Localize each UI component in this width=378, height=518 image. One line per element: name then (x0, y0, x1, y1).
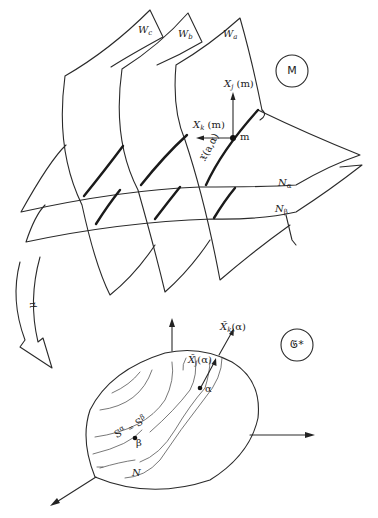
label-point-alpha: α (205, 384, 212, 394)
label-w-a: Wa (223, 29, 237, 41)
sheet-w-c (62, 10, 163, 295)
label-point-m: m (240, 132, 249, 142)
label-w-b: Wb (178, 29, 193, 41)
diagram-drawing (0, 0, 378, 518)
sheet-w-a (175, 18, 290, 280)
label-m-space: M (284, 65, 300, 76)
label-n-alpha: Nα (278, 178, 291, 190)
label-x-tilde-j-alpha: X̃j(α) (188, 355, 212, 367)
label-n-level: N (132, 468, 141, 478)
sheet-w-b (119, 13, 210, 292)
label-n-beta: Nβ (275, 204, 288, 216)
label-x-tilde-k-alpha: X̃k(α) (220, 322, 246, 334)
diagram-canvas: Wc Wb Wa M Xj (m) Xk (m) m 𝔛(a,α) Nα Nβ … (0, 0, 378, 518)
intersection-curves (84, 110, 258, 224)
label-g-star-space: 𝔊* (285, 339, 309, 350)
level-set-n-beta (26, 165, 362, 245)
label-point-beta: β (136, 438, 142, 448)
label-w-c: Wc (138, 25, 152, 37)
label-x-k-m: Xk (m) (193, 120, 225, 132)
level-set-n-alpha (21, 110, 360, 212)
mu-map-arrow (16, 257, 52, 368)
label-mu: μ (27, 302, 37, 309)
label-x-j-m: Xj (m) (224, 79, 254, 91)
surface-g-star (86, 328, 258, 489)
